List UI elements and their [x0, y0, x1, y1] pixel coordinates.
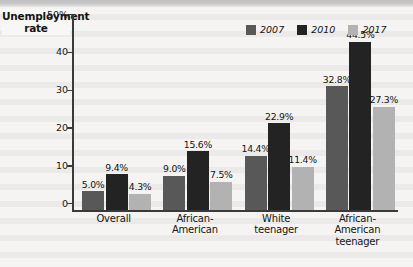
category-label-overall: Overall	[73, 213, 154, 224]
y-tick-label-50%: 50%	[26, 10, 68, 20]
y-tick-40	[67, 52, 73, 53]
value-label-2007-african-american-teenager: 32.8%	[323, 74, 351, 85]
bar-2017-african-american-teenager[interactable]	[373, 107, 395, 210]
unemployment-rate-bar-chart: Unemployment rate 01020304050% 5.0%9.4%4…	[0, 7, 413, 267]
y-axis-tick-labels: 01020304050%	[22, 7, 68, 217]
bar-2007-african-american[interactable]	[163, 176, 185, 210]
bar-2007-white-teenager[interactable]	[245, 156, 267, 210]
value-label-2007-white-teenager: 14.4%	[241, 143, 269, 154]
category-label-african-american-teenager: African-Americanteenager	[317, 213, 398, 247]
y-tick-label-30: 30	[26, 85, 68, 95]
legend-swatch-2017	[348, 25, 358, 35]
category-label-line: Overall	[73, 213, 154, 224]
x-axis-line	[72, 210, 398, 212]
y-tick-label-10: 10	[26, 161, 68, 171]
y-tick-label-0: 0	[26, 199, 68, 209]
category-label-line: teenager	[317, 236, 398, 247]
scan-top-band	[0, 0, 413, 7]
bar-2010-white-teenager[interactable]	[268, 123, 290, 210]
category-label-line: teenager	[236, 224, 317, 235]
y-tick-label-40: 40	[26, 47, 68, 57]
category-label-line: American	[317, 224, 398, 235]
value-label-2017-african-american: 7.5%	[210, 169, 233, 180]
bar-2007-african-american-teenager[interactable]	[326, 86, 348, 210]
y-tick-label-20: 20	[26, 123, 68, 133]
bar-2007-overall[interactable]	[82, 191, 104, 210]
y-tick-50%	[67, 14, 73, 15]
value-label-2017-white-teenager: 11.4%	[288, 154, 316, 165]
legend-swatch-2007	[246, 25, 256, 35]
value-label-2017-overall: 4.3%	[129, 181, 152, 192]
y-tick-0	[67, 203, 73, 204]
value-label-2007-overall: 5.0%	[82, 179, 105, 190]
legend-label-2017: 2017	[362, 24, 386, 35]
bar-2010-african-american-teenager[interactable]	[349, 42, 371, 210]
legend-item-2010[interactable]: 2010	[297, 24, 335, 35]
y-tick-20	[67, 127, 73, 128]
legend-label-2007: 2007	[260, 24, 284, 35]
plot-area: 5.0%9.4%4.3%9.0%15.6%7.5%14.4%22.9%11.4%…	[73, 14, 398, 210]
category-label-line: African-	[154, 213, 235, 224]
category-label-african-american: African-American	[154, 213, 235, 236]
page-background: Unemployment rate 01020304050% 5.0%9.4%4…	[0, 0, 413, 267]
value-label-2010-overall: 9.4%	[105, 162, 128, 173]
value-label-2017-african-american-teenager: 27.3%	[370, 94, 398, 105]
chart-legend: 2007 2010 2017	[246, 24, 387, 35]
legend-item-2017[interactable]: 2017	[348, 24, 386, 35]
bar-2017-african-american[interactable]	[210, 182, 232, 210]
category-label-line: African-	[317, 213, 398, 224]
category-label-line: American	[154, 224, 235, 235]
legend-label-2010: 2010	[311, 24, 335, 35]
legend-swatch-2010	[297, 25, 307, 35]
value-label-2010-white-teenager: 22.9%	[265, 111, 293, 122]
category-label-white-teenager: Whiteteenager	[236, 213, 317, 236]
value-label-2010-african-american: 15.6%	[184, 139, 212, 150]
x-axis-category-labels: OverallAfrican-AmericanWhiteteenagerAfri…	[73, 213, 398, 267]
y-tick-30	[67, 90, 73, 91]
bar-2017-white-teenager[interactable]	[292, 167, 314, 210]
y-tick-10	[67, 165, 73, 166]
value-label-2007-african-american: 9.0%	[163, 163, 186, 174]
bar-2010-overall[interactable]	[106, 174, 128, 210]
legend-item-2007[interactable]: 2007	[246, 24, 284, 35]
category-label-line: White	[236, 213, 317, 224]
bar-2017-overall[interactable]	[129, 194, 151, 210]
bar-2010-african-american[interactable]	[187, 151, 209, 210]
